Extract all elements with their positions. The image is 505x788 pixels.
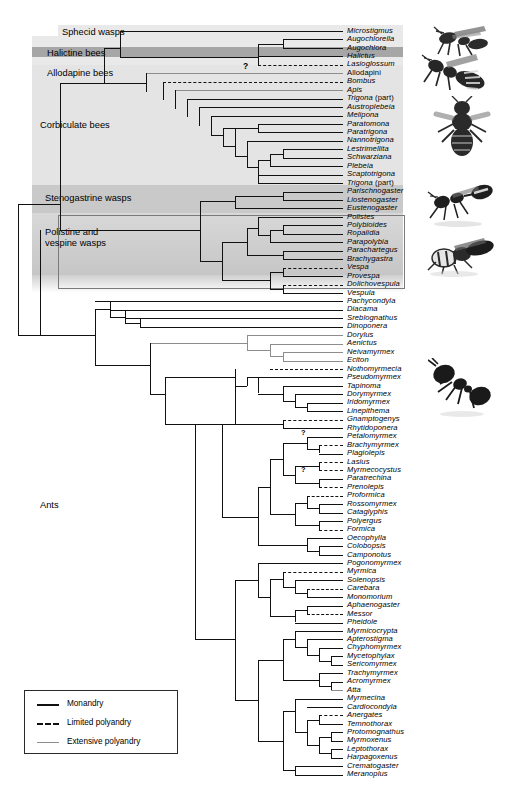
branch-vespa-stem: [270, 272, 283, 273]
branch-augochlora: [283, 48, 343, 49]
branch-plebeia-clade-stem: [258, 160, 270, 161]
branch-plebeia: [270, 166, 343, 167]
legend-label-monandry: Monandry: [67, 699, 103, 708]
branch-attini-backbone: [258, 660, 283, 661]
branch-monomorium: [307, 597, 343, 598]
branch-solenopsidini-inner: [295, 593, 307, 594]
group-label-sphecid-wasps: Sphecid wasps: [62, 27, 125, 38]
branch-acromyrmex: [331, 682, 343, 683]
node-solenopsis-clade: [295, 580, 296, 593]
branch-formicini-stem: [270, 514, 295, 515]
branch-parapolybia: [270, 242, 343, 243]
branch-formicinae-core-stem: [258, 487, 270, 488]
legend-box: Monandry Limited polyandry Extensive pol…: [24, 690, 178, 754]
branch-solenopsidini-stem: [283, 587, 295, 588]
branch-formicidae-stem: [40, 335, 95, 336]
branch-ecitonini-stem: [270, 356, 283, 357]
node-austroplebeia-clade: [199, 107, 200, 126]
node-allodapini-corbiculate: [146, 73, 147, 92]
branch-scaptotrigona: [258, 175, 343, 176]
branch-nothomyrmecia-stem: [165, 377, 235, 378]
branch-diacama-stem: [110, 317, 125, 318]
branch-formicoid-inner: [235, 386, 247, 387]
annotation-prenolepis-uncertainty: ?: [301, 466, 306, 474]
node-formicoid-crown: [195, 424, 196, 639]
branch-eciton: [283, 361, 343, 362]
branch-dorylinae-stem: [150, 343, 247, 344]
node-diacama-clade: [125, 310, 126, 323]
branch-pheidolini-stem: [270, 616, 295, 617]
node-dorylinae: [247, 335, 248, 349]
node-pseudo-spine: [247, 377, 248, 385]
node-doryline-formicoid: [150, 343, 151, 395]
node-dolichoderinae-inner: [295, 394, 296, 407]
node-aculeata-upper: [60, 83, 61, 230]
node-apis-clade: [175, 90, 176, 109]
branch-leptothorax: [331, 749, 343, 750]
node-formicinae-inner: [283, 443, 284, 474]
branch-oecophylla: [307, 538, 343, 539]
branch-dolicho-inner-stem: [283, 401, 295, 402]
node-trigona-clade: [187, 99, 188, 118]
node-formicidae: [95, 309, 96, 365]
node-formicoid-backbone: [165, 377, 166, 423]
branch-formicoid-link: [222, 424, 235, 425]
branch-myrmecocystus: [319, 470, 343, 471]
branch-trachymyrmex: [319, 673, 343, 674]
node-petalomyrmex-clade: [307, 437, 308, 450]
branch-myrmicine-inner1: [270, 579, 283, 580]
node-sreblo-dinoponera: [140, 318, 141, 326]
group-label-ants: Ants: [40, 500, 59, 511]
branch-myrmecina: [295, 699, 343, 700]
node-leptothoracini-inner: [319, 737, 320, 754]
taxon-label-pheidole: Pheidole: [347, 618, 377, 626]
taxon-label-trigona-part: Trigona (part): [347, 94, 394, 102]
node-lepto-harpagoxenus: [331, 749, 332, 757]
branch-lasiini-stem: [295, 466, 319, 467]
branch-pheidole: [295, 623, 343, 624]
node-crema-spine: [295, 699, 296, 733]
taxon-label-colobopsis: Colobopsis: [347, 542, 386, 550]
legend-label-extensive-polyandry: Extensive polyandry: [67, 737, 140, 746]
branch-myrmicinae-crown-stem: [235, 700, 258, 701]
branch-leafcutter-backbone: [283, 680, 319, 681]
branch-brachygastra: [283, 259, 343, 260]
taxon-label-petalomyrmex: Petalomyrmex: [347, 432, 397, 440]
branch-formica: [319, 530, 343, 531]
branch-apoid-link: [104, 48, 120, 49]
branch-ponerinae-stem: [95, 309, 110, 310]
branch-pseudomyrmex: [247, 377, 343, 378]
node-vespinae: [270, 272, 271, 289]
legend-swatch-extensive-polyandry: [37, 742, 59, 743]
branch-harpagoxenus: [331, 758, 343, 759]
node-paratomona-paratrigona: [258, 124, 259, 132]
node-plebeia-clade: [270, 154, 271, 167]
branch-halictus: [258, 56, 343, 57]
branch-stenogastrinae-stem: [200, 201, 235, 202]
node-attini: [283, 639, 284, 680]
branch-protomognathus: [331, 732, 343, 733]
branch-vespa: [283, 268, 343, 269]
annotation-allodapini-uncertainty: ?: [243, 62, 248, 70]
branch-vespinae-stem: [222, 280, 270, 281]
node-vespidae-crown: [222, 242, 223, 280]
node-meliponini-inner: [258, 160, 259, 179]
node-aphaenogaster-messor: [307, 606, 308, 614]
branch-iridomyrmex: [307, 403, 343, 404]
branch-aculeata-link: [60, 83, 104, 84]
legend-label-limited-polyandry: Limited polyandry: [67, 718, 131, 727]
node-lestrimellita-schwarziana: [283, 149, 284, 157]
branch-root: [18, 204, 60, 205]
branch-microstigmus: [120, 31, 343, 32]
node-parischno-liosteno: [283, 192, 284, 200]
node-trachymyrmex-clade: [319, 673, 320, 686]
branch-cataglyphis: [319, 513, 343, 514]
branch-polyergus: [319, 521, 343, 522]
branch-prenolepis: [319, 487, 343, 488]
branch-linepithema: [307, 411, 343, 412]
node-apterostigma-clade: [307, 639, 308, 654]
node-polyergus-formica: [319, 521, 320, 529]
branch-allodapini: [146, 73, 343, 74]
node-formicini: [295, 503, 296, 526]
branch-rhytidoponera: [283, 428, 343, 429]
